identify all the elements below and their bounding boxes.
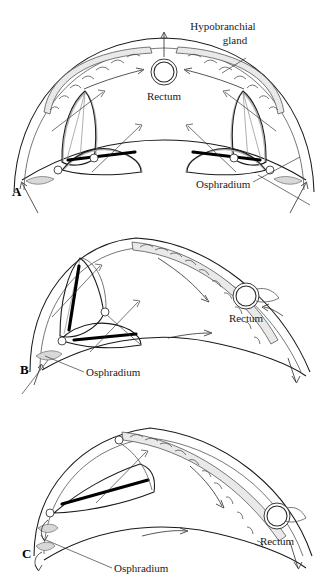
node-upper-c — [115, 436, 123, 444]
exhalant-arrow-a — [161, 32, 167, 57]
label-osphradium-b: Osphradium — [86, 366, 141, 378]
node-left-lower-a — [54, 166, 62, 174]
rectum-inner-ring-b — [236, 286, 256, 306]
label-osphradium-a: Osphradium — [196, 178, 251, 190]
ctenidium-connector-b — [104, 312, 140, 344]
ctenidium-axis-upper-b — [69, 266, 79, 330]
panel-letter-c: C — [22, 546, 31, 561]
node-lower-c — [46, 509, 54, 517]
hypobranchial-gland-right-a — [176, 47, 284, 114]
panel-a: Hypobranchial gland Rectum Osphradium A — [12, 20, 314, 213]
ctenidium-axis-c — [62, 480, 148, 504]
node-lower-b — [58, 337, 66, 345]
osphradium-blob-b — [36, 351, 62, 360]
ctenidium-b — [60, 258, 104, 337]
current-arrow-floor-b — [168, 330, 212, 338]
label-hypobranchial-gland-line1: Hypobranchial — [190, 20, 255, 32]
margin-arrow-lower-c — [35, 552, 42, 571]
gill-arrow-c — [96, 450, 148, 503]
ctenidium-axis-lower-b — [74, 334, 136, 340]
gill-arrow-lower-b — [90, 300, 140, 352]
gill-arrow-left-lower-a — [92, 124, 142, 172]
label-rectum-b: Rectum — [229, 312, 264, 324]
gill-arrow-right-lower-a — [186, 124, 236, 172]
hypobranchial-gland-c — [122, 432, 286, 541]
osphradium-blob-right-a — [274, 177, 302, 185]
inhalant-arrow-right-a — [290, 182, 308, 213]
panel-letter-b: B — [20, 362, 29, 377]
leader-osphradium-c — [46, 540, 112, 568]
current-arrow-floor-c — [142, 528, 188, 536]
visceral-floor-a — [22, 140, 306, 180]
panel-c: Rectum Osphradium C — [22, 428, 312, 574]
gill-arrow-right-upper-a — [223, 90, 276, 131]
label-osphradium-c: Osphradium — [114, 562, 169, 574]
visceral-floor-b — [42, 337, 306, 376]
hypobranchial-gland-left-a — [44, 47, 152, 114]
node-upper-b — [101, 308, 109, 316]
visceral-floor-c — [44, 527, 306, 568]
node-right-upper-a — [230, 154, 238, 162]
label-hypobranchial-gland-line2: gland — [223, 34, 248, 46]
ctenidium-connector2-b — [82, 258, 106, 308]
panel-letter-a: A — [12, 184, 22, 199]
gill-arrow-left-upper-a — [52, 90, 105, 131]
node-left-upper-a — [90, 154, 98, 162]
osphradium-blob-left-a — [26, 177, 54, 185]
panel-b: Rectum Osphradium B — [20, 238, 310, 394]
ctenidium-lobe-c — [54, 464, 154, 513]
inhalant-arrow-left-a — [20, 182, 38, 213]
label-rectum-c: Rectum — [260, 535, 295, 547]
rectum-inner-ring-c — [267, 506, 287, 526]
label-rectum-a: Rectum — [147, 90, 182, 102]
rectum-arrow-b — [262, 304, 283, 316]
figure-canvas: Hypobranchial gland Rectum Osphradium A — [0, 0, 328, 587]
rectum-inner-ring-a — [154, 62, 174, 82]
osphradium-blob-lower-c — [36, 542, 55, 550]
